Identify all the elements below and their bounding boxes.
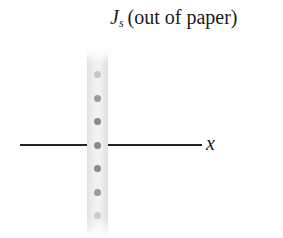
current-direction-text: (out of paper)	[128, 6, 238, 28]
current-density-label: Js(out of paper)	[110, 6, 238, 31]
out-of-page-dot-icon	[94, 71, 101, 78]
out-of-page-dot-icon	[94, 95, 101, 102]
out-of-page-dot-icon	[94, 212, 101, 219]
current-density-symbol: J	[110, 6, 119, 28]
out-of-page-dot-icon	[94, 189, 101, 196]
current-density-subscript: s	[119, 16, 124, 30]
x-axis-label: x	[206, 132, 215, 155]
out-of-page-dot-icon	[94, 142, 101, 149]
out-of-page-dot-icon	[94, 118, 101, 125]
out-of-page-dot-icon	[94, 165, 101, 172]
x-axis-left-segment	[20, 144, 87, 146]
x-axis-right-segment	[108, 144, 202, 146]
